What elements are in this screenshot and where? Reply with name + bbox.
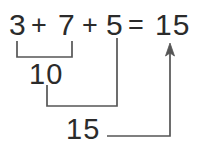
connector-overlay xyxy=(0,0,208,153)
bracket-10-plus-5 xyxy=(47,38,117,106)
bracket-3-plus-7 xyxy=(17,41,72,57)
math-diagram-canvas: 3 + 7 + 5 = 15 10 15 xyxy=(0,0,208,153)
